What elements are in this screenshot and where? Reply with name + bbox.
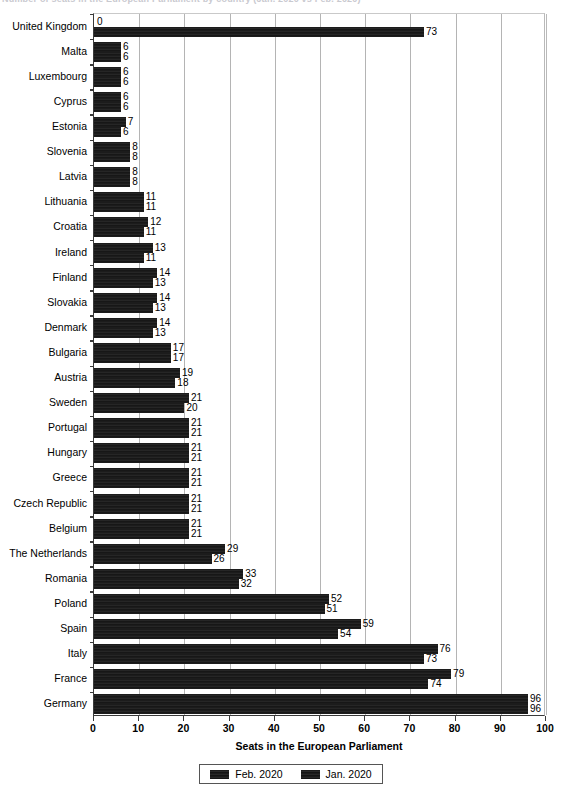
gridline-100	[546, 14, 547, 715]
bar-jan-2020[interactable]: 6	[94, 52, 121, 62]
x-axis-tick-label: 70	[404, 722, 416, 734]
bar-jan-2020[interactable]: 13	[94, 303, 153, 313]
bar-jan-2020[interactable]: 6	[94, 77, 121, 87]
bar-feb-2020[interactable]: 17	[94, 343, 171, 353]
category-label: United Kingdom	[0, 21, 87, 32]
bar-feb-2020[interactable]: 6	[94, 92, 121, 102]
bar-jan-2020[interactable]: 6	[94, 127, 121, 137]
bar-row: Luxembourg66	[94, 64, 544, 89]
category-label: Greece	[0, 472, 87, 483]
bar-row: Italy7673	[94, 642, 544, 667]
y-axis-tick	[90, 692, 94, 693]
bar-jan-2020[interactable]: 51	[94, 604, 325, 614]
bar-jan-2020[interactable]: 26	[94, 554, 212, 564]
bar-feb-2020[interactable]: 19	[94, 368, 180, 378]
category-label: Portugal	[0, 422, 87, 433]
bar-jan-2020[interactable]: 96	[94, 704, 528, 714]
bar-value-label: 54	[340, 629, 351, 639]
category-label: The Netherlands	[0, 548, 87, 559]
bar-feb-2020[interactable]: 59	[94, 619, 361, 629]
bar-jan-2020[interactable]: 21	[94, 504, 189, 514]
bar-feb-2020[interactable]: 79	[94, 669, 451, 679]
category-label: Finland	[0, 272, 87, 283]
bar-feb-2020[interactable]: 11	[94, 192, 144, 202]
bar-jan-2020[interactable]: 21	[94, 453, 189, 463]
bar-jan-2020[interactable]: 11	[94, 202, 144, 212]
bar-feb-2020[interactable]: 14	[94, 293, 157, 303]
bar-feb-2020[interactable]: 29	[94, 544, 225, 554]
legend-item-jan[interactable]: Jan. 2020	[301, 768, 372, 780]
bar-feb-2020[interactable]: 13	[94, 243, 153, 253]
legend-label: Feb. 2020	[235, 768, 282, 780]
bar-jan-2020[interactable]: 17	[94, 353, 171, 363]
bar-feb-2020[interactable]: 96	[94, 694, 528, 704]
bar-row: Germany9696	[94, 692, 544, 717]
bar-feb-2020[interactable]: 21	[94, 443, 189, 453]
bar-row: Sweden2120	[94, 391, 544, 416]
bar-feb-2020[interactable]: 8	[94, 142, 130, 152]
bar-jan-2020[interactable]: 18	[94, 378, 175, 388]
y-axis-tick	[90, 642, 94, 643]
category-label: Hungary	[0, 447, 87, 458]
bar-feb-2020[interactable]: 12	[94, 217, 148, 227]
bar-feb-2020[interactable]: 33	[94, 569, 243, 579]
bar-feb-2020[interactable]: 52	[94, 594, 329, 604]
bar-row: Ireland1311	[94, 240, 544, 265]
bar-feb-2020[interactable]: 6	[94, 67, 121, 77]
bar-jan-2020[interactable]: 21	[94, 529, 189, 539]
y-axis-tick	[90, 265, 94, 266]
bar-feb-2020[interactable]: 21	[94, 468, 189, 478]
bar-feb-2020[interactable]: 21	[94, 393, 189, 403]
bar-row: Cyprus66	[94, 89, 544, 114]
bar-jan-2020[interactable]: 73	[94, 654, 424, 664]
legend-item-feb[interactable]: Feb. 2020	[210, 768, 282, 780]
bar-row: Bulgaria1717	[94, 340, 544, 365]
bar-jan-2020[interactable]: 20	[94, 403, 184, 413]
bar-jan-2020[interactable]: 8	[94, 152, 130, 162]
y-axis-tick	[90, 14, 94, 15]
bar-value-label: 11	[146, 202, 156, 212]
y-axis-tick	[90, 617, 94, 618]
category-label: Italy	[0, 648, 87, 659]
bar-feb-2020[interactable]: 14	[94, 318, 157, 328]
bar-feb-2020[interactable]: 76	[94, 644, 438, 654]
bar-jan-2020[interactable]: 13	[94, 278, 153, 288]
y-axis-tick	[90, 215, 94, 216]
bar-row: Czech Republic2121	[94, 491, 544, 516]
x-axis-tick-label: 90	[494, 722, 506, 734]
y-axis-tick	[90, 240, 94, 241]
y-axis-tick	[90, 89, 94, 90]
bar-feb-2020[interactable]: 6	[94, 42, 121, 52]
bar-value-label: 11	[146, 227, 156, 237]
bar-row: Slovakia1413	[94, 290, 544, 315]
category-label: Denmark	[0, 322, 87, 333]
bar-jan-2020[interactable]: 54	[94, 629, 338, 639]
bar-feb-2020[interactable]: 14	[94, 268, 157, 278]
bar-jan-2020[interactable]: 6	[94, 102, 121, 112]
bar-jan-2020[interactable]: 8	[94, 177, 130, 187]
bar-jan-2020[interactable]: 11	[94, 227, 144, 237]
bar-jan-2020[interactable]: 21	[94, 428, 189, 438]
bar-jan-2020[interactable]: 13	[94, 328, 153, 338]
x-axis-tick	[455, 716, 456, 721]
bar-jan-2020[interactable]: 74	[94, 679, 428, 689]
y-axis-tick	[90, 491, 94, 492]
bar-row: Spain5954	[94, 617, 544, 642]
bar-jan-2020[interactable]: 73	[94, 27, 424, 37]
bar-jan-2020[interactable]: 21	[94, 478, 189, 488]
bar-feb-2020[interactable]: 21	[94, 418, 189, 428]
bar-feb-2020[interactable]: 7	[94, 117, 126, 127]
chart-container: Number of seats in the European Parliame…	[0, 0, 582, 792]
bar-jan-2020[interactable]: 32	[94, 579, 239, 589]
bar-feb-2020[interactable]: 21	[94, 519, 189, 529]
category-label: Spain	[0, 623, 87, 634]
bar-feb-2020[interactable]: 8	[94, 167, 130, 177]
bar-feb-2020[interactable]: 21	[94, 494, 189, 504]
bar-value-label: 8	[132, 152, 138, 162]
bar-jan-2020[interactable]: 11	[94, 253, 144, 263]
x-axis-tick	[138, 716, 139, 721]
x-axis-tick	[274, 716, 275, 721]
bar-value-label: 13	[155, 278, 166, 288]
x-axis: 0102030405060708090100	[93, 716, 545, 742]
bar-value-label: 6	[123, 52, 129, 62]
